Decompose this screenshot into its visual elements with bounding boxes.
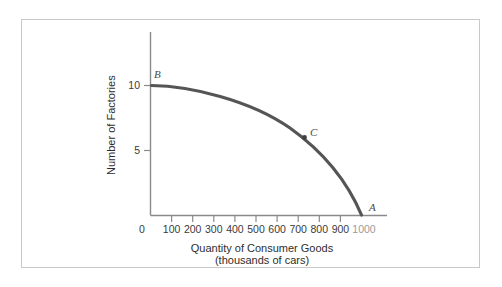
x-tick-label-500: 500	[247, 223, 265, 235]
x-tick-label-700: 700	[289, 223, 307, 235]
x-axis-subtitle: (thousands of cars)	[215, 254, 309, 266]
x-tick-label-400: 400	[226, 223, 244, 235]
point-c-marker	[302, 135, 307, 140]
x-tick-label-600: 600	[268, 223, 286, 235]
point-label-c: C	[310, 126, 318, 138]
x-axis-ticks	[172, 216, 341, 223]
x-tick-label-1000: 1000	[352, 223, 376, 235]
figure-container: 10 5 0 100 200 300 400 500 600 700 800 9…	[0, 0, 502, 287]
point-label-a: A	[368, 201, 376, 213]
x-tick-label-100: 100	[163, 223, 181, 235]
x-tick-label-0: 0	[139, 223, 145, 235]
x-axis-title: Quantity of Consumer Goods	[191, 242, 334, 254]
ppf-chart: 10 5 0 100 200 300 400 500 600 700 800 9…	[0, 0, 502, 287]
y-tick-label-5: 5	[134, 144, 140, 156]
x-tick-label-200: 200	[184, 223, 202, 235]
point-label-b: B	[154, 68, 161, 80]
x-tick-label-800: 800	[311, 223, 329, 235]
y-axis-title: Number of Factories	[105, 75, 117, 175]
ppf-curve	[152, 86, 362, 216]
x-tick-label-900: 900	[332, 223, 350, 235]
y-tick-label-10: 10	[128, 79, 140, 91]
x-tick-label-300: 300	[205, 223, 223, 235]
